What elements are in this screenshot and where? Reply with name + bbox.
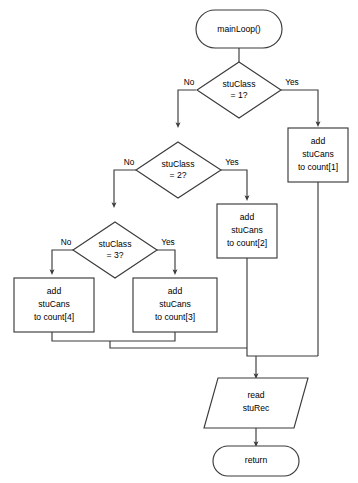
decision1-line2: = 1? (231, 90, 248, 100)
process4-line1: add (47, 286, 62, 296)
node-start-label: mainLoop() (217, 24, 261, 34)
node-process-count-3[interactable]: add stuCans to count[3] (133, 278, 217, 332)
node-process-count-1[interactable]: add stuCans to count[1] (288, 128, 348, 182)
flowchart-svg: mainLoop() stuClass = 1? No Yes stuClass… (0, 0, 358, 483)
edge-process4-merge (52, 332, 110, 341)
decision3-line2: = 3? (107, 250, 124, 260)
decision2-line2: = 2? (170, 170, 187, 180)
decision2-no-label: No (124, 157, 135, 167)
edge-decision3-yes (156, 250, 175, 272)
edge-mergeB-to-mergeC (247, 348, 318, 356)
node-decision-stuclass-1[interactable]: stuClass = 1? (197, 62, 281, 118)
node-start-mainloop[interactable]: mainLoop() (196, 10, 282, 48)
node-io-read-sturec[interactable]: read stuRec (204, 378, 308, 428)
edge-decision1-no (178, 90, 196, 125)
edge-decision1-yes (281, 90, 318, 124)
edge-decision2-yes (221, 170, 247, 198)
process2-line1: add (240, 212, 255, 222)
edge-mergeA-to-mergeB (110, 341, 247, 348)
node-end-label: return (245, 455, 268, 465)
decision3-line1: stuClass (99, 239, 132, 249)
decision3-no-label: No (61, 237, 72, 247)
process1-line3: to count[1] (298, 162, 338, 172)
decision2-yes-label: Yes (225, 157, 239, 167)
process3-line2: stuCans (159, 299, 191, 309)
process2-line2: stuCans (231, 225, 263, 235)
process2-line3: to count[2] (227, 238, 267, 248)
process4-line3: to count[4] (34, 312, 74, 322)
io-line2: stuRec (243, 403, 270, 413)
edge-decision2-no (114, 170, 136, 205)
io-line1: read (247, 390, 264, 400)
decision1-line1: stuClass (223, 79, 256, 89)
process1-line1: add (311, 136, 326, 146)
node-process-count-4[interactable]: add stuCans to count[4] (14, 278, 94, 332)
edge-process3-merge (110, 332, 175, 341)
node-decision-stuclass-2[interactable]: stuClass = 2? (136, 142, 221, 198)
decision2-line1: stuClass (162, 159, 195, 169)
decision1-yes-label: Yes (285, 77, 299, 87)
node-end-return[interactable]: return (213, 446, 299, 476)
edge-decision3-no (52, 250, 74, 272)
process3-line1: add (168, 286, 183, 296)
flowchart-canvas: mainLoop() stuClass = 1? No Yes stuClass… (0, 0, 358, 483)
decision1-no-label: No (184, 77, 195, 87)
process4-line2: stuCans (38, 299, 70, 309)
process1-line2: stuCans (302, 149, 334, 159)
node-process-count-2[interactable]: add stuCans to count[2] (217, 204, 277, 258)
node-decision-stuclass-3[interactable]: stuClass = 3? (73, 222, 157, 278)
process3-line3: to count[3] (155, 312, 195, 322)
decision3-yes-label: Yes (161, 237, 175, 247)
